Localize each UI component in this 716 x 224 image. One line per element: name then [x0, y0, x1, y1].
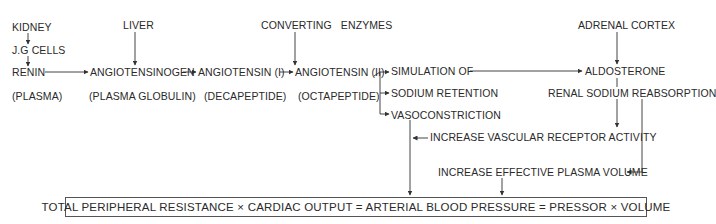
equation-box: TOTAL PERIPHERAL RESISTANCE × CARDIAC OU…	[65, 197, 647, 217]
node-sodium-retention: SODIUM RETENTION	[391, 87, 498, 99]
node-angiotensin-1: ANGIOTENSIN (I)	[198, 66, 285, 78]
node-vasoconstriction: VASOCONSTRICTION	[391, 109, 501, 121]
node-angiotensinogen: ANGIOTENSINOGEN	[90, 66, 195, 78]
node-effective-plasma-volume: INCREASE EFFECTIVE PLASMA VOLUME	[438, 166, 648, 178]
node-renal-sodium-reabsorption: RENAL SODIUM REABSORPTION	[548, 87, 716, 99]
node-renin-subtitle: (PLASMA)	[12, 90, 62, 102]
node-renin: RENIN	[12, 66, 45, 78]
node-angiotensinogen-subtitle: (PLASMA GLOBULIN)	[89, 90, 196, 102]
node-liver: LIVER	[123, 19, 154, 31]
node-angiotensin-2-subtitle: (OCTAPEPTIDE)	[298, 90, 380, 102]
node-angiotensin-2: ANGIOTENSIN (II)	[295, 66, 385, 78]
node-converting-enzymes: CONVERTING ENZYMES	[261, 19, 392, 31]
node-jg-cells: J.G CELLS	[12, 44, 65, 56]
node-adrenal-cortex: ADRENAL CORTEX	[578, 19, 675, 31]
node-vascular-receptor-activity: INCREASE VASCULAR RECEPTOR ACTIVITY	[430, 131, 657, 143]
node-angiotensin-1-subtitle: (DECAPEPTIDE)	[204, 90, 286, 102]
node-simulation-of: SIMULATION OF	[391, 65, 473, 77]
node-aldosterone: ALDOSTERONE	[585, 65, 665, 77]
equation-text: TOTAL PERIPHERAL RESISTANCE × CARDIAC OU…	[42, 201, 671, 213]
node-kidney: KIDNEY	[12, 21, 52, 33]
